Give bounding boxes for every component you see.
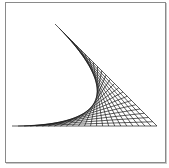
string-line	[85, 75, 107, 126]
string-art-diagram	[0, 0, 169, 168]
string-line	[72, 84, 114, 127]
